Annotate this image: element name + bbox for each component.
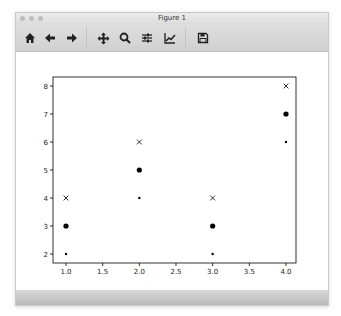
data-point-small	[211, 253, 213, 255]
axes-frame	[53, 77, 296, 263]
window-title: Figure 1	[16, 13, 328, 24]
y-tick-label: 2	[44, 251, 48, 259]
scatter-plot: 1.01.52.02.53.03.54.02345678	[16, 52, 328, 290]
edit-axes-button[interactable]	[162, 30, 178, 46]
y-tick-label: 3	[44, 223, 48, 231]
x-tick-label: 1.0	[60, 268, 71, 276]
data-point-small	[285, 141, 287, 143]
move-icon	[97, 32, 110, 45]
x-tick-label: 3.0	[207, 268, 218, 276]
x-tick-label: 2.0	[134, 268, 145, 276]
sliders-icon	[141, 32, 153, 44]
zoom-rect-button[interactable]	[117, 30, 133, 46]
toolbar-separator	[185, 27, 186, 48]
y-tick-label: 8	[44, 83, 48, 91]
pan-button[interactable]	[95, 30, 111, 46]
save-button[interactable]	[195, 30, 211, 46]
line-chart-icon	[164, 32, 176, 44]
configure-subplots-button[interactable]	[139, 30, 155, 46]
status-bar	[16, 290, 328, 305]
back-button[interactable]	[42, 30, 58, 46]
data-point-large	[283, 111, 288, 116]
data-point-large	[63, 223, 68, 228]
data-point-small	[138, 197, 140, 199]
y-tick-label: 4	[44, 195, 49, 203]
figure-canvas[interactable]: 1.01.52.02.53.03.54.02345678	[16, 52, 328, 290]
y-tick-label: 5	[44, 167, 48, 175]
x-tick-label: 4.0	[280, 268, 291, 276]
home-button[interactable]	[22, 30, 38, 46]
data-point-large	[137, 167, 142, 172]
figure-window: Figure 1 1.01.52.02.53.03.54.0234567	[15, 12, 329, 306]
data-point-large	[210, 223, 215, 228]
magnifier-icon	[119, 32, 131, 44]
toolbar-separator	[86, 27, 87, 48]
arrow-right-icon	[66, 32, 78, 44]
floppy-disk-icon	[197, 32, 209, 44]
forward-button[interactable]	[64, 30, 80, 46]
x-tick-label: 3.5	[244, 268, 255, 276]
home-icon	[24, 32, 36, 44]
y-tick-label: 7	[44, 111, 48, 119]
toolbar	[16, 24, 328, 52]
arrow-left-icon	[44, 32, 56, 44]
x-tick-label: 2.5	[170, 268, 181, 276]
x-tick-label: 1.5	[97, 268, 108, 276]
data-point-small	[65, 253, 67, 255]
title-bar[interactable]: Figure 1	[16, 13, 328, 24]
y-tick-label: 6	[44, 139, 49, 147]
